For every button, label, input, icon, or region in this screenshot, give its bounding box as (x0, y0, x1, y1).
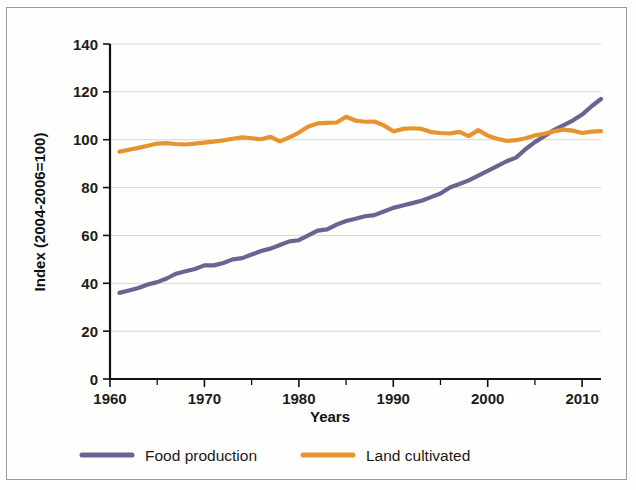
y-tick-label: 140 (73, 36, 98, 53)
y-tick-label: 100 (73, 131, 98, 148)
y-tick-label: 0 (90, 371, 98, 388)
x-tick-label: 2000 (471, 390, 504, 407)
y-tick-label: 40 (81, 275, 98, 292)
x-tick-label: 1990 (377, 390, 410, 407)
legend-label-1[interactable]: Land cultivated (366, 447, 470, 464)
y-tick-label: 60 (81, 227, 98, 244)
x-tick-label: 1980 (282, 390, 315, 407)
gridlines (110, 44, 601, 331)
y-axis-tick-labels: 020406080100120140 (73, 36, 98, 388)
legend-label-0[interactable]: Food production (145, 447, 257, 464)
chart-legend: Food productionLand cultivated (82, 447, 470, 464)
x-tick-label: 1970 (188, 390, 221, 407)
line-chart: 020406080100120140 196019701980199020002… (0, 0, 636, 490)
x-tick-label: 2010 (565, 390, 598, 407)
x-tick-label: 1960 (93, 390, 126, 407)
series-line-food-production (119, 99, 601, 293)
x-axis-tick-labels: 196019701980199020002010 (93, 390, 598, 407)
x-axis-title: Years (310, 408, 350, 425)
series-lines (119, 99, 601, 293)
y-tick-label: 80 (81, 179, 98, 196)
y-tick-label: 120 (73, 83, 98, 100)
y-tick-label: 20 (81, 323, 98, 340)
y-axis-title: Index (2004-2006=100) (31, 133, 48, 292)
